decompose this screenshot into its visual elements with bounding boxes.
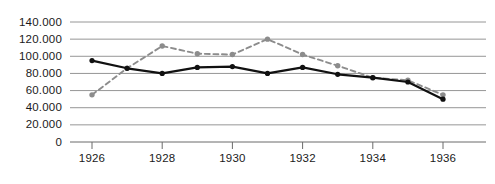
data-point-solid-black-series-1931 (265, 71, 270, 76)
data-point-solid-black-series-1935 (405, 79, 410, 84)
data-series-group (89, 36, 445, 101)
y-axis-tick-labels: 140.000120.000100.00080.00060.00040.0002… (19, 16, 62, 148)
data-point-dashed-gray-series-1928 (160, 43, 165, 48)
gridlines-group (70, 22, 486, 142)
x-axis-tick-labels: 192619281930193219341936 (79, 152, 456, 164)
data-point-dashed-gray-series-1933 (335, 63, 340, 68)
y-tick-label-120000: 120.000 (19, 33, 62, 45)
x-tick-label-1934: 1934 (360, 152, 387, 164)
y-tick-label-60000: 60.000 (26, 84, 62, 96)
x-tick-label-1936: 1936 (430, 152, 456, 164)
data-point-solid-black-series-1930 (230, 64, 235, 69)
y-tick-label-140000: 140.000 (19, 16, 62, 28)
data-point-solid-black-series-1929 (195, 65, 200, 70)
data-point-solid-black-series-1932 (300, 65, 305, 70)
x-tick-label-1926: 1926 (79, 152, 105, 164)
data-point-dashed-gray-series-1931 (265, 36, 270, 41)
data-point-solid-black-series-1927 (125, 66, 130, 71)
data-point-solid-black-series-1928 (160, 71, 165, 76)
x-tick-label-1930: 1930 (219, 152, 245, 164)
y-tick-label-40000: 40.000 (26, 101, 62, 113)
data-point-solid-black-series-1933 (335, 72, 340, 77)
y-tick-label-20000: 20.000 (26, 118, 62, 130)
y-tick-label-0: 0 (55, 136, 62, 148)
chart-canvas: 140.000120.000100.00080.00060.00040.0002… (0, 0, 495, 184)
series-line-solid-black-series (92, 61, 443, 100)
data-point-solid-black-series-1936 (440, 97, 445, 102)
data-point-dashed-gray-series-1932 (300, 52, 305, 57)
y-tick-label-80000: 80.000 (26, 67, 62, 79)
y-tick-label-100000: 100.000 (19, 50, 62, 62)
x-axis-tickmarks (92, 142, 443, 149)
x-tick-label-1932: 1932 (289, 152, 315, 164)
x-tick-label-1928: 1928 (149, 152, 175, 164)
data-point-dashed-gray-series-1929 (195, 51, 200, 56)
data-point-dashed-gray-series-1926 (89, 92, 94, 97)
data-point-solid-black-series-1934 (370, 75, 375, 80)
line-chart: 140.000120.000100.00080.00060.00040.0002… (0, 0, 495, 184)
data-point-solid-black-series-1926 (89, 58, 94, 63)
data-point-dashed-gray-series-1930 (230, 52, 235, 57)
series-line-dashed-gray-series (92, 39, 443, 95)
